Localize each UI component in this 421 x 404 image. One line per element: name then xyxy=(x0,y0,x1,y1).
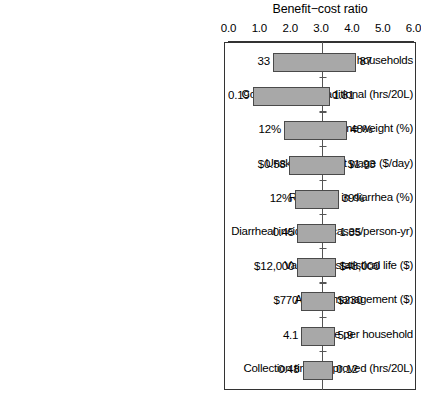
baseline-row-tick xyxy=(319,77,326,78)
tornado-bar xyxy=(301,292,334,311)
baseline-row-tick xyxy=(319,214,326,215)
tornado-row: # households3387 xyxy=(0,47,421,77)
tornado-row: Reduction in diarrhea (%)12%39% xyxy=(0,184,421,214)
bar-low-value: 4.1 xyxy=(283,329,301,341)
tornado-row: Collection time: traditional (hrs/20L)0.… xyxy=(0,81,421,111)
baseline-row-tick xyxy=(319,180,326,181)
tornado-row: Value of a statistical life ($)$12,000$4… xyxy=(0,252,421,282)
bar-low-value: $12,000 xyxy=(254,260,297,272)
tornado-bar xyxy=(295,190,339,209)
bar-low-value: $0.58 xyxy=(258,158,289,170)
bar-low-value: 12% xyxy=(259,123,284,135)
x-tick-label: 0.0 xyxy=(221,22,236,34)
bar-high-value: 39% xyxy=(339,192,364,204)
tornado-bar xyxy=(284,121,347,140)
bar-low-value: 12% xyxy=(270,192,295,204)
tornado-row: People per household4.15.9 xyxy=(0,321,421,351)
x-tick-label: 1.0 xyxy=(252,22,267,34)
tornado-bar xyxy=(297,224,336,243)
tornado-bar xyxy=(253,87,330,106)
x-tick-label: 2.0 xyxy=(282,22,297,34)
tornado-row: Diarrheal incidence (cases/person-yr)0.4… xyxy=(0,218,421,248)
bar-low-value: 0.48 xyxy=(278,363,303,375)
x-tick-label: 3.0 xyxy=(313,22,328,34)
x-axis-tick-labels: 0.01.02.03.04.05.06.0 xyxy=(0,22,421,36)
bar-high-value: 5.9 xyxy=(335,329,353,341)
tornado-bar xyxy=(289,156,345,175)
chart-title: Benefit−cost ratio xyxy=(224,2,416,16)
bar-high-value: $48,000 xyxy=(336,260,379,272)
x-tick-label: 5.0 xyxy=(375,22,390,34)
baseline-row-tick xyxy=(319,146,326,147)
bar-high-value: 48% xyxy=(347,123,372,135)
tornado-row: Unskilled market wage ($/day)$0.58$1.93 xyxy=(0,150,421,180)
bar-high-value: 0.12 xyxy=(333,363,358,375)
tornado-bar xyxy=(303,361,334,380)
bar-high-value: 1.35 xyxy=(336,226,361,238)
bar-high-value: $1.93 xyxy=(345,158,376,170)
baseline-row-tick xyxy=(319,111,326,112)
bar-low-value: $770 xyxy=(273,294,301,306)
baseline-row-tick xyxy=(319,248,326,249)
baseline-row-tick xyxy=(319,282,326,283)
tornado-bar xyxy=(301,327,334,346)
bar-low-value: 0.19 xyxy=(228,89,253,101)
x-tick-label: 4.0 xyxy=(344,22,359,34)
tornado-row: Collection time: improved (hrs/20L)0.480… xyxy=(0,355,421,385)
bar-high-value: $230 xyxy=(335,294,363,306)
tornado-bar xyxy=(297,258,336,277)
x-tick-label: 6.0 xyxy=(406,22,421,34)
baseline-row-tick xyxy=(319,317,326,318)
baseline-row-tick xyxy=(319,351,326,352)
bar-high-value: 1.81 xyxy=(330,89,355,101)
bar-low-value: 0.45 xyxy=(273,226,298,238)
tornado-row: Annual management ($)$770$230 xyxy=(0,286,421,316)
bar-low-value: 33 xyxy=(257,55,272,67)
tornado-bar xyxy=(273,53,357,72)
tornado-row: Value of time weight (%)12%48% xyxy=(0,115,421,145)
bar-high-value: 87 xyxy=(356,55,371,67)
tornado-chart: Benefit−cost ratio 0.01.02.03.04.05.06.0… xyxy=(0,0,421,404)
